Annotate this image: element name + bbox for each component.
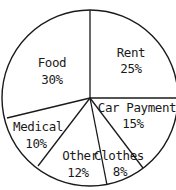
slice-label-food: Food bbox=[38, 55, 67, 70]
slice-value-clothes: 8% bbox=[113, 164, 128, 179]
slice-label-other: Other bbox=[62, 148, 99, 163]
slice-value-other: 12% bbox=[67, 165, 89, 180]
slice-label-clothes: Clothes bbox=[94, 148, 144, 163]
slice-value-medical: 10% bbox=[25, 136, 47, 151]
pie-chart-svg: Rent 25% Car Payment 15% Clothes 8% Othe… bbox=[0, 0, 176, 190]
slice-value-food: 30% bbox=[41, 72, 63, 87]
slice-value-rent: 25% bbox=[120, 61, 142, 76]
slice-label-car-payment: Car Payment bbox=[98, 100, 176, 115]
slice-label-medical: Medical bbox=[13, 119, 63, 134]
slice-label-rent: Rent bbox=[117, 45, 146, 60]
pie-chart: Rent 25% Car Payment 15% Clothes 8% Othe… bbox=[0, 0, 176, 190]
slice-value-car-payment: 15% bbox=[122, 116, 144, 131]
slice-rent: Rent 25% bbox=[117, 45, 146, 76]
